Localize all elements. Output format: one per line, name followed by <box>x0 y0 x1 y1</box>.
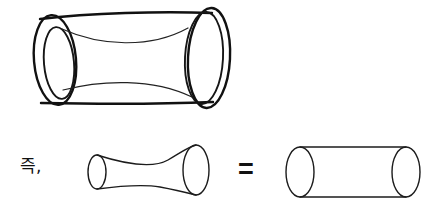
plain-cylinder-group <box>286 147 420 197</box>
figure-canvas: 즉, = <box>0 0 435 206</box>
equals-sign: = <box>238 156 254 183</box>
diagram-svg <box>0 0 435 206</box>
therefore-label: 즉, <box>20 158 41 175</box>
waist-tube-right-ellipse <box>183 145 209 195</box>
top-tube-outer-top-edge <box>40 12 212 19</box>
top-tube-right-outer-ellipse <box>185 7 232 109</box>
waist-tube-bottom-edge <box>97 186 196 195</box>
waist-tube-top-edge <box>97 145 196 165</box>
plain-cylinder-right-ellipse <box>392 147 420 197</box>
waist-tube-group <box>88 145 209 195</box>
top-tube-group <box>30 7 232 109</box>
top-tube-inner-waist-lower <box>63 83 192 97</box>
waist-tube-left-ellipse <box>88 155 106 189</box>
plain-cylinder-left-ellipse <box>286 147 314 197</box>
top-tube-inner-waist-upper <box>62 28 188 43</box>
